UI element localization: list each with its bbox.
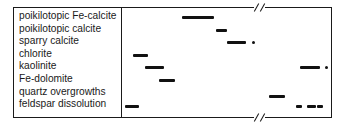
mineral-label-list: poikilotopic Fe-calcite poikilotopic cal… [19,10,116,111]
timeline-bar [125,105,139,108]
timeline-bar [296,105,302,108]
timeline-bar [182,16,214,19]
row-label: poikilotopic Fe-calcite [19,10,116,23]
row-label: feldspar dissolution [19,98,116,111]
timeline-bar [300,66,320,69]
timeline-dot [252,41,255,44]
timeline-bar [133,54,148,57]
axis-break-slash-icon [254,113,259,121]
frame-divider [121,7,122,118]
timeline-dot [325,66,328,69]
timeline-bar [307,105,316,108]
timeline-bar [317,105,323,108]
timeline-bar [269,95,285,98]
timeline-bar [216,29,227,32]
row-label: Fe-dolomite [19,73,116,86]
row-label: chlorite [19,48,116,61]
frame-bottom-right [265,117,332,118]
timeline-bar [227,41,246,44]
frame-top-left [13,7,254,8]
frame-top-right [265,7,332,8]
axis-break-slash-icon [254,3,259,11]
timeline-bar [159,79,175,82]
frame-bottom-left [13,117,254,118]
frame-right [331,7,332,118]
row-label: sparry calcite [19,35,116,48]
row-label: poikilotopic calcite [19,23,116,36]
row-label: quartz overgrowths [19,86,116,99]
timeline-bar [145,66,164,69]
frame-left [13,7,14,118]
row-label: kaolinite [19,60,116,73]
